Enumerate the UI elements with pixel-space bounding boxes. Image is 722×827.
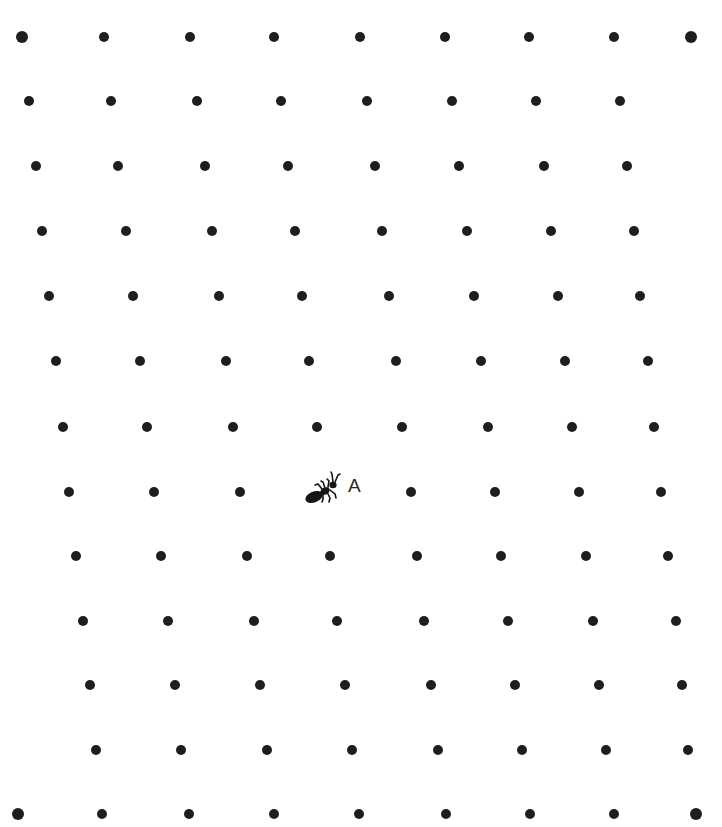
grid-dot [91, 745, 101, 755]
grid-dot [44, 291, 54, 301]
grid-dot [304, 356, 314, 366]
grid-dot [325, 551, 335, 561]
grid-dot [262, 745, 272, 755]
grid-dot [269, 809, 279, 819]
grid-dot [433, 745, 443, 755]
grid-dot [332, 616, 342, 626]
grid-dot [214, 291, 224, 301]
dot-grid [0, 0, 722, 827]
grid-dot [615, 96, 625, 106]
grid-dot [629, 226, 639, 236]
grid-dot [269, 32, 279, 42]
grid-dot [419, 616, 429, 626]
grid-dot [546, 226, 556, 236]
grid-dot [649, 422, 659, 432]
grid-dot [362, 96, 372, 106]
grid-dot [525, 809, 535, 819]
grid-dot [677, 680, 687, 690]
grid-dot [290, 226, 300, 236]
grid-dot [71, 551, 81, 561]
grid-dot [58, 422, 68, 432]
grid-dot [377, 226, 387, 236]
grid-dot [588, 616, 598, 626]
grid-dot [690, 808, 702, 820]
grid-dot [594, 680, 604, 690]
grid-dot [185, 32, 195, 42]
grid-dot [581, 551, 591, 561]
grid-dot [31, 161, 41, 171]
grid-dot [490, 487, 500, 497]
grid-dot [340, 680, 350, 690]
grid-dot [113, 161, 123, 171]
grid-dot [469, 291, 479, 301]
grid-dot [24, 96, 34, 106]
grid-dot [412, 551, 422, 561]
grid-dot [354, 809, 364, 819]
grid-dot [622, 161, 632, 171]
grid-dot [207, 226, 217, 236]
grid-dot [609, 809, 619, 819]
grid-dot [462, 226, 472, 236]
grid-dot [64, 487, 74, 497]
grid-dot [170, 680, 180, 690]
grid-dot [656, 487, 666, 497]
grid-dot [228, 422, 238, 432]
grid-dot [517, 745, 527, 755]
grid-dot [384, 291, 394, 301]
grid-dot [663, 551, 673, 561]
grid-dot [121, 226, 131, 236]
grid-dot [99, 32, 109, 42]
grid-dot [510, 680, 520, 690]
grid-dot [242, 551, 252, 561]
grid-dot [221, 356, 231, 366]
grid-dot [235, 487, 245, 497]
grid-dot [391, 356, 401, 366]
grid-dot [255, 680, 265, 690]
grid-dot [635, 291, 645, 301]
grid-dot [440, 32, 450, 42]
point-label-a: A [348, 476, 361, 495]
grid-dot [447, 96, 457, 106]
grid-dot [560, 356, 570, 366]
grid-dot [503, 616, 513, 626]
grid-dot [683, 745, 693, 755]
grid-dot [85, 680, 95, 690]
grid-dot [312, 422, 322, 432]
grid-dot [476, 356, 486, 366]
grid-dot [149, 487, 159, 497]
grid-dot [539, 161, 549, 171]
grid-dot [78, 616, 88, 626]
grid-dot [370, 161, 380, 171]
ant-icon [304, 470, 346, 506]
grid-dot [51, 356, 61, 366]
grid-dot [355, 32, 365, 42]
grid-dot [609, 32, 619, 42]
grid-dot [406, 487, 416, 497]
grid-dot [16, 31, 28, 43]
grid-dot [106, 96, 116, 106]
grid-dot [454, 161, 464, 171]
grid-dot [567, 422, 577, 432]
grid-dot [192, 96, 202, 106]
grid-dot [347, 745, 357, 755]
grid-dot [553, 291, 563, 301]
grid-dot [163, 616, 173, 626]
grid-dot [441, 809, 451, 819]
grid-dot [496, 551, 506, 561]
grid-dot [574, 487, 584, 497]
grid-dot [12, 808, 24, 820]
grid-dot [297, 291, 307, 301]
grid-dot [601, 745, 611, 755]
grid-dot [524, 32, 534, 42]
grid-dot [671, 616, 681, 626]
grid-dot [184, 809, 194, 819]
grid-dot [249, 616, 259, 626]
grid-dot [531, 96, 541, 106]
grid-dot [426, 680, 436, 690]
grid-dot [176, 745, 186, 755]
grid-dot [128, 291, 138, 301]
grid-dot [37, 226, 47, 236]
grid-dot [142, 422, 152, 432]
grid-dot [97, 809, 107, 819]
grid-dot [156, 551, 166, 561]
